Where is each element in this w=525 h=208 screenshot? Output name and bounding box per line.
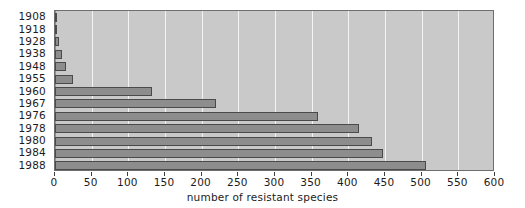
bar-row bbox=[55, 11, 57, 23]
bar-row bbox=[55, 85, 152, 97]
x-tick-label-350: 350 bbox=[300, 177, 321, 188]
x-tick-label-150: 150 bbox=[154, 177, 175, 188]
y-tick-label-1960: 1960 bbox=[18, 85, 46, 96]
y-tick-label-1980: 1980 bbox=[18, 135, 46, 146]
x-axis-title: number of resistant species bbox=[0, 191, 525, 203]
y-tick-label-1955: 1955 bbox=[18, 73, 46, 84]
bar-1928 bbox=[55, 37, 59, 46]
bar-row bbox=[55, 147, 383, 159]
bar-1978 bbox=[55, 124, 359, 133]
x-tick-label-50: 50 bbox=[84, 177, 98, 188]
bar-row bbox=[55, 48, 62, 60]
bar-chart-figure: 1908191819281938194819551960196719761978… bbox=[0, 0, 525, 208]
y-tick-label-1988: 1988 bbox=[18, 160, 46, 171]
x-tick-label-250: 250 bbox=[227, 177, 248, 188]
x-tick-label-600: 600 bbox=[484, 177, 505, 188]
y-tick-label-1984: 1984 bbox=[18, 147, 46, 158]
x-tick-label-300: 300 bbox=[264, 177, 285, 188]
bar-1988 bbox=[55, 161, 426, 170]
y-tick-label-1938: 1938 bbox=[18, 48, 46, 59]
bar-1984 bbox=[55, 149, 383, 158]
plot-area bbox=[54, 10, 494, 171]
y-tick-label-1918: 1918 bbox=[18, 23, 46, 34]
bar-row bbox=[55, 73, 73, 85]
bar-series bbox=[55, 11, 493, 170]
y-tick-label-1978: 1978 bbox=[18, 122, 46, 133]
bar-row bbox=[55, 61, 66, 73]
x-tick-label-200: 200 bbox=[190, 177, 211, 188]
y-axis-tick-labels: 1908191819281938194819551960196719761978… bbox=[0, 10, 50, 171]
x-tick-label-0: 0 bbox=[51, 177, 58, 188]
y-tick-label-1976: 1976 bbox=[18, 110, 46, 121]
x-tick-label-450: 450 bbox=[374, 177, 395, 188]
bar-1938 bbox=[55, 50, 62, 59]
bar-1908 bbox=[55, 13, 57, 22]
bar-1948 bbox=[55, 62, 66, 71]
bar-1980 bbox=[55, 137, 372, 146]
bar-row bbox=[55, 160, 426, 171]
bar-row bbox=[55, 36, 59, 48]
bar-row bbox=[55, 98, 216, 110]
x-tick-label-550: 550 bbox=[447, 177, 468, 188]
x-tick-label-100: 100 bbox=[117, 177, 138, 188]
y-tick-label-1948: 1948 bbox=[18, 60, 46, 71]
y-tick-label-1967: 1967 bbox=[18, 98, 46, 109]
bar-1960 bbox=[55, 87, 152, 96]
bar-1976 bbox=[55, 112, 318, 121]
bar-row bbox=[55, 23, 57, 35]
bar-1967 bbox=[55, 99, 216, 108]
bar-row bbox=[55, 110, 318, 122]
y-tick-label-1928: 1928 bbox=[18, 36, 46, 47]
y-tick-label-1908: 1908 bbox=[18, 11, 46, 22]
x-tick-label-400: 400 bbox=[337, 177, 358, 188]
x-axis-tick-labels: 050100150200250300350400450500550600 bbox=[54, 172, 494, 188]
bar-row bbox=[55, 122, 359, 134]
bar-1918 bbox=[55, 25, 57, 34]
bar-row bbox=[55, 135, 372, 147]
x-tick-label-500: 500 bbox=[410, 177, 431, 188]
bar-1955 bbox=[55, 75, 73, 84]
